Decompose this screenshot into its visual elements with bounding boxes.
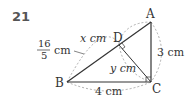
bd-pointer bbox=[74, 51, 84, 54]
label-bd-unit: cm bbox=[54, 44, 71, 57]
label-bc: 4 cm bbox=[95, 85, 123, 98]
label-bd-denominator: 5 bbox=[41, 50, 47, 61]
side-ab bbox=[67, 22, 151, 82]
vertex-b: B bbox=[55, 76, 64, 90]
label-x: x cm bbox=[80, 32, 106, 45]
vertex-d: D bbox=[113, 31, 123, 45]
vertex-c: C bbox=[152, 82, 161, 96]
label-bd-numerator: 16 bbox=[38, 38, 51, 49]
label-y: y cm bbox=[109, 62, 136, 75]
triangle-diagram: A B C D x cm y cm 3 cm 4 cm 16 5 cm bbox=[0, 0, 195, 101]
label-ac: 3 cm bbox=[157, 46, 185, 59]
vertex-a: A bbox=[145, 7, 155, 21]
